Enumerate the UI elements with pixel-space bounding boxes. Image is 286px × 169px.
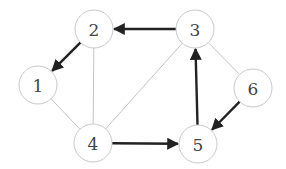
edge-5-3-arrow bbox=[196, 49, 198, 125]
node-2: 2 bbox=[75, 10, 113, 48]
node-4: 4 bbox=[74, 124, 112, 162]
edge-4-5-arrow bbox=[112, 143, 178, 144]
node-6: 6 bbox=[234, 69, 272, 107]
node-label: 4 bbox=[88, 134, 99, 154]
edges-layer bbox=[51, 29, 240, 144]
edge-4-3 bbox=[106, 43, 183, 129]
node-label: 3 bbox=[190, 20, 201, 40]
node-label: 2 bbox=[89, 20, 100, 40]
edge-1-4 bbox=[51, 99, 80, 129]
node-label: 5 bbox=[193, 135, 204, 155]
edge-3-6 bbox=[208, 43, 239, 75]
node-label: 6 bbox=[248, 79, 259, 99]
nodes-layer: 123456 bbox=[19, 10, 272, 163]
node-label: 1 bbox=[33, 76, 44, 96]
node-5: 5 bbox=[179, 125, 217, 163]
edge-6-5-arrow bbox=[212, 102, 240, 130]
node-1: 1 bbox=[19, 66, 57, 104]
edge-2-4 bbox=[93, 48, 94, 124]
node-3: 3 bbox=[176, 10, 214, 48]
edge-2-1-arrow bbox=[52, 42, 80, 70]
graph-diagram: 123456 bbox=[0, 0, 286, 169]
